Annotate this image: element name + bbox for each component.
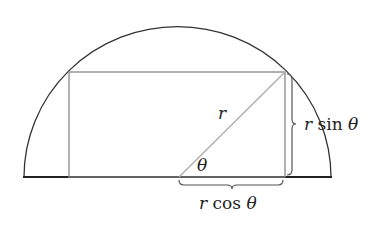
height-label: r sin θ bbox=[304, 114, 358, 134]
inscribed-rectangle bbox=[69, 72, 285, 177]
width-brace bbox=[179, 180, 283, 189]
height-brace bbox=[287, 74, 296, 175]
radius-line bbox=[179, 72, 285, 177]
width-label-theta: θ bbox=[246, 193, 256, 213]
semicircle-diagram: r θ r sin θ r cos θ bbox=[0, 0, 375, 229]
width-label: r cos θ bbox=[199, 193, 257, 213]
width-label-fn: cos bbox=[207, 193, 246, 213]
angle-label: θ bbox=[197, 155, 207, 175]
height-label-fn: sin bbox=[312, 114, 348, 134]
radius-label: r bbox=[218, 103, 227, 123]
height-label-theta: θ bbox=[348, 114, 358, 134]
